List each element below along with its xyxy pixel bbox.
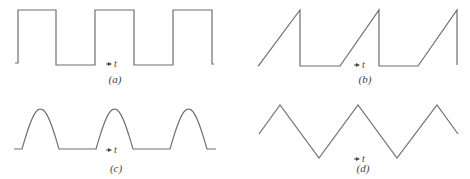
panel-label-a: (a) xyxy=(109,73,122,86)
panel-c-rectified-sine: t (c) xyxy=(14,109,216,175)
panel-a-square-wave: t (a) xyxy=(15,10,214,86)
panel-d-triangle-wave: t (d) xyxy=(259,105,458,175)
time-label: t xyxy=(362,59,365,70)
arrowhead-icon xyxy=(356,63,360,67)
arrowhead-icon xyxy=(108,148,112,152)
panel-label-c: (c) xyxy=(110,162,123,175)
panel-b-sawtooth-wave: t (b) xyxy=(258,10,457,86)
panel-label-d: (d) xyxy=(357,162,370,175)
arrowhead-icon xyxy=(356,157,360,161)
triangle-wave-line xyxy=(259,105,458,158)
rectified-sine-line xyxy=(14,109,216,149)
arrowhead-icon xyxy=(108,62,112,66)
panel-label-b: (b) xyxy=(359,73,372,86)
sawtooth-wave-line xyxy=(258,10,457,66)
time-label: t xyxy=(114,58,117,69)
waveform-figure: t (a) t (b) t (c) t (d) xyxy=(0,0,470,179)
time-label: t xyxy=(114,144,117,155)
square-wave-line xyxy=(15,10,214,65)
